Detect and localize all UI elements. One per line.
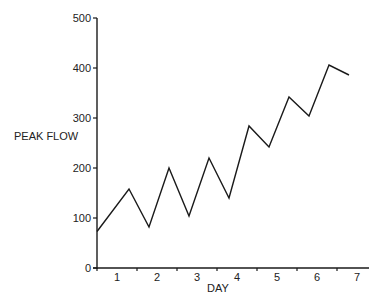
y-tick-label: 200: [73, 162, 91, 174]
peak-flow-line: [97, 65, 349, 232]
x-tick-label: 2: [154, 271, 160, 283]
x-axis: 1234567: [93, 268, 369, 283]
x-tick-label: 5: [274, 271, 280, 283]
x-tick-label: 7: [354, 271, 360, 283]
x-tick-label: 1: [114, 271, 120, 283]
y-axis: 0100200300400500: [73, 12, 97, 274]
x-tick-label: 4: [234, 271, 240, 283]
y-tick-label: 400: [73, 62, 91, 74]
y-axis-label: PEAK FLOW: [14, 130, 79, 142]
peak-flow-chart: 0100200300400500 1234567 PEAK FLOW DAY: [0, 0, 391, 302]
y-tick-label: 100: [73, 212, 91, 224]
x-tick-label: 6: [314, 271, 320, 283]
x-axis-label: DAY: [207, 282, 229, 294]
y-tick-label: 300: [73, 112, 91, 124]
y-tick-label: 500: [73, 12, 91, 24]
y-tick-label: 0: [85, 262, 91, 274]
x-tick-label: 3: [194, 271, 200, 283]
